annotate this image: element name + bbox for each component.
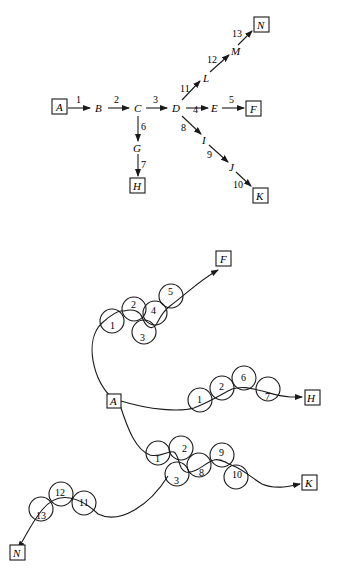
svg-text:A: A [55, 101, 63, 113]
svg-text:N: N [256, 19, 265, 31]
edge-label-3: 3 [153, 94, 158, 105]
circle-label-H-6: 6 [241, 372, 246, 383]
node-H: H [130, 178, 145, 193]
edge-label-9: 9 [207, 149, 212, 160]
terminal-N: N [10, 545, 25, 560]
circle-label-H-2: 2 [219, 381, 224, 392]
edge-label-7: 7 [141, 159, 146, 170]
path-A-to-K [120, 405, 300, 487]
circle-K-2 [169, 436, 193, 460]
node-K: K [253, 188, 268, 203]
terminal-K: K [302, 475, 317, 490]
node-B: B [95, 102, 102, 114]
path-A-to-F [92, 270, 218, 400]
circle-label-F-5: 5 [168, 286, 173, 297]
svg-text:K: K [255, 190, 264, 202]
circle-label-F-1: 1 [110, 320, 115, 331]
svg-text:N: N [12, 547, 21, 559]
top-graph: 1 2 3 4 5 6 7 8 9 10 11 12 13 B C D E G … [52, 17, 269, 203]
svg-text:A: A [109, 395, 117, 407]
node-A: A [52, 99, 67, 114]
edge-label-4: 4 [193, 104, 198, 115]
edge-label-12: 12 [207, 54, 217, 65]
node-I: I [201, 134, 207, 146]
node-N: N [254, 17, 269, 32]
circle-label-N-13: 13 [36, 510, 46, 521]
diagram-canvas: 1 2 3 4 5 6 7 8 9 10 11 12 13 B C D E G … [0, 0, 339, 574]
node-J: J [229, 161, 235, 173]
terminal-A: A [107, 394, 121, 408]
svg-text:K: K [304, 477, 313, 489]
node-D: D [171, 102, 180, 114]
svg-text:H: H [306, 392, 316, 404]
node-C: C [134, 102, 142, 114]
circle-label-K-1: 1 [155, 453, 160, 464]
circle-label-F-3: 3 [140, 332, 145, 343]
node-G: G [133, 142, 141, 154]
circle-label-H-7: 7 [265, 391, 270, 402]
circle-label-F-2: 2 [131, 299, 136, 310]
circle-label-N-11: 11 [79, 497, 89, 508]
bottom-graph: 1 2 3 4 5 F 1 2 6 7 H A 1 [10, 251, 320, 560]
edge-label-6: 6 [141, 121, 146, 132]
circle-label-K-8: 8 [199, 467, 204, 478]
node-L: L [202, 72, 209, 84]
edge-label-11: 11 [180, 83, 190, 94]
terminal-F: F [216, 251, 231, 266]
svg-text:H: H [132, 180, 142, 192]
edge-label-1: 1 [76, 94, 81, 105]
svg-text:F: F [219, 253, 227, 265]
circle-label-H-1: 1 [197, 394, 202, 405]
edge-label-13: 13 [232, 28, 242, 39]
circle-label-N-12: 12 [55, 487, 65, 498]
edge-label-10: 10 [233, 179, 243, 190]
circle-label-F-4: 4 [151, 305, 156, 316]
edge-label-2: 2 [114, 94, 119, 105]
node-M: M [230, 45, 241, 57]
circle-label-K-2: 2 [182, 443, 187, 454]
edge-label-5: 5 [229, 94, 234, 105]
node-F: F [246, 101, 261, 116]
circle-label-K-9: 9 [219, 447, 224, 458]
svg-text:F: F [249, 103, 257, 115]
node-E: E [210, 102, 218, 114]
circle-label-K-10: 10 [232, 469, 242, 480]
terminal-H: H [305, 390, 320, 405]
edge-label-8: 8 [181, 122, 186, 133]
circle-label-K-3: 3 [174, 475, 179, 486]
